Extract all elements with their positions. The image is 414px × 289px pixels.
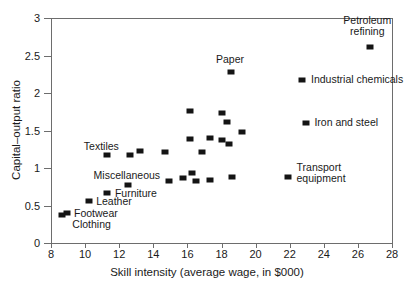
- point-annotation-label: Leather: [96, 195, 132, 206]
- x-tick-label: 18: [207, 248, 237, 260]
- y-tick-mark: [44, 243, 51, 244]
- x-tick-label: 14: [138, 248, 168, 260]
- x-tick-label: 12: [104, 248, 134, 260]
- point-annotation-label: Paper: [216, 53, 244, 64]
- point-annotation-label: Iron and steel: [314, 117, 378, 128]
- data-point-marker: [219, 110, 226, 115]
- data-point-marker: [302, 121, 309, 126]
- data-point-marker: [228, 175, 235, 180]
- data-point-marker: [198, 149, 205, 154]
- y-tick-mark: [44, 206, 51, 207]
- x-tick-label: 8: [36, 248, 66, 260]
- x-tick-label: 16: [172, 248, 202, 260]
- data-point-marker: [188, 170, 195, 175]
- point-annotation-label: Miscellaneous: [94, 170, 161, 181]
- data-point-marker: [166, 179, 173, 184]
- x-tick-label: 22: [275, 248, 305, 260]
- x-tick-label: 10: [70, 248, 100, 260]
- data-point-marker: [136, 148, 143, 153]
- data-point-marker: [207, 178, 214, 183]
- scatter-chart-figure: 00.511.522.53 810121416182022242628 Petr…: [0, 0, 414, 289]
- point-annotation-label: Transport equipment: [297, 162, 346, 184]
- x-tick-label: 28: [377, 248, 407, 260]
- y-tick-mark: [44, 131, 51, 132]
- data-point-marker: [284, 175, 291, 180]
- data-point-marker: [162, 149, 169, 154]
- data-point-marker: [227, 70, 234, 75]
- right-axis-line: [392, 18, 393, 244]
- data-point-marker: [224, 119, 231, 124]
- data-point-marker: [186, 108, 193, 113]
- y-tick-mark: [44, 168, 51, 169]
- point-annotation-label: Industrial chemicals: [311, 73, 403, 84]
- y-tick-mark: [44, 18, 51, 19]
- data-point-marker: [127, 152, 134, 157]
- data-point-marker: [85, 198, 92, 203]
- point-annotation-label: Textiles: [84, 141, 119, 152]
- data-point-marker: [226, 142, 233, 147]
- x-tick-label: 26: [343, 248, 373, 260]
- data-point-marker: [238, 129, 245, 134]
- data-point-marker: [104, 153, 111, 158]
- point-annotation-label: Clothing: [72, 218, 111, 229]
- data-point-marker: [186, 137, 193, 142]
- data-point-marker: [64, 210, 71, 215]
- data-point-marker: [299, 77, 306, 82]
- y-axis-title: Capital–output ratio: [10, 20, 22, 240]
- y-tick-mark: [44, 56, 51, 57]
- x-tick-label: 24: [309, 248, 339, 260]
- point-annotation-label: Petroleum refining: [343, 15, 391, 37]
- data-point-marker: [206, 136, 213, 141]
- y-tick-mark: [44, 93, 51, 94]
- data-point-marker: [180, 175, 187, 180]
- x-tick-label: 20: [241, 248, 271, 260]
- data-point-marker: [192, 179, 199, 184]
- x-axis-title: Skill intensity (average wage, in $000): [0, 266, 414, 278]
- data-point-marker: [366, 45, 373, 50]
